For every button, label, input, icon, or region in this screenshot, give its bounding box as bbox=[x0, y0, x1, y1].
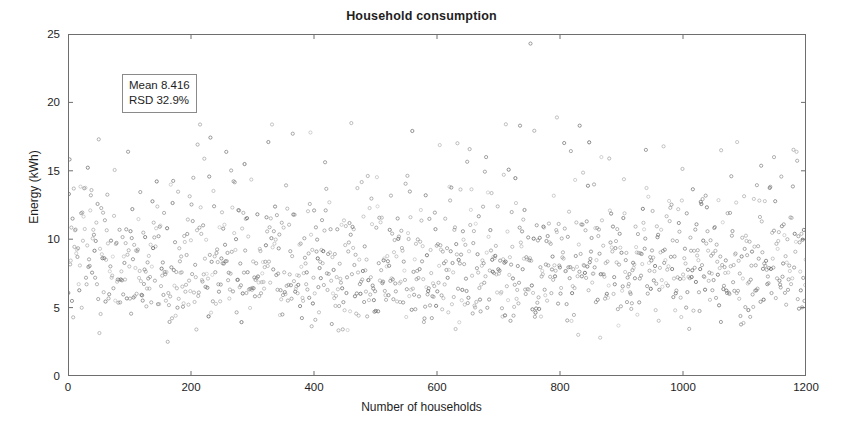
data-point bbox=[777, 231, 780, 234]
data-point bbox=[400, 229, 403, 232]
data-point bbox=[597, 234, 600, 237]
data-point bbox=[744, 234, 747, 237]
data-point bbox=[366, 174, 369, 177]
data-point bbox=[455, 253, 458, 256]
data-point bbox=[574, 254, 577, 257]
data-point bbox=[500, 307, 503, 310]
data-point bbox=[76, 255, 79, 258]
data-point bbox=[602, 244, 605, 247]
data-point bbox=[366, 315, 369, 318]
data-point bbox=[666, 268, 669, 271]
data-point bbox=[717, 199, 720, 202]
y-tick-label: 0 bbox=[54, 370, 60, 382]
data-point bbox=[242, 271, 245, 274]
data-point bbox=[96, 202, 99, 205]
data-point bbox=[298, 305, 301, 308]
data-point bbox=[234, 238, 237, 241]
data-point bbox=[84, 276, 87, 279]
data-point bbox=[314, 226, 317, 229]
data-point bbox=[81, 239, 84, 242]
data-point bbox=[520, 245, 523, 248]
data-point bbox=[481, 205, 484, 208]
data-point bbox=[339, 277, 342, 280]
data-point bbox=[511, 245, 514, 248]
data-point bbox=[672, 296, 675, 299]
data-point bbox=[524, 292, 527, 295]
data-point bbox=[584, 229, 587, 232]
data-point bbox=[413, 293, 416, 296]
data-point bbox=[557, 222, 560, 225]
data-point bbox=[695, 223, 698, 226]
data-point bbox=[462, 238, 465, 241]
data-point bbox=[639, 274, 642, 277]
data-point bbox=[417, 295, 420, 298]
data-point bbox=[471, 312, 474, 315]
data-point bbox=[318, 266, 321, 269]
data-point bbox=[309, 131, 312, 134]
data-point bbox=[578, 124, 581, 127]
data-point bbox=[761, 251, 764, 254]
data-point bbox=[563, 141, 566, 144]
data-point bbox=[137, 276, 140, 279]
data-point bbox=[280, 298, 283, 301]
data-point bbox=[455, 243, 458, 246]
data-point bbox=[268, 226, 271, 229]
data-point bbox=[724, 259, 727, 262]
data-point bbox=[529, 42, 532, 45]
data-point bbox=[394, 282, 397, 285]
data-point bbox=[458, 321, 461, 324]
data-point bbox=[610, 246, 613, 249]
data-point bbox=[99, 312, 102, 315]
data-point bbox=[698, 309, 701, 312]
data-point bbox=[520, 230, 523, 233]
data-point bbox=[686, 291, 689, 294]
y-tick-label: 25 bbox=[47, 28, 60, 40]
data-point bbox=[198, 123, 201, 126]
data-point bbox=[608, 157, 611, 160]
data-point bbox=[732, 263, 735, 266]
data-point bbox=[134, 266, 137, 269]
data-point bbox=[220, 257, 223, 260]
data-point bbox=[167, 291, 170, 294]
data-point bbox=[641, 262, 644, 265]
data-point bbox=[250, 178, 253, 181]
data-point bbox=[319, 277, 322, 280]
data-point bbox=[638, 301, 641, 304]
data-point bbox=[283, 271, 286, 274]
data-point bbox=[571, 292, 574, 295]
data-point bbox=[522, 218, 525, 221]
data-point bbox=[394, 290, 397, 293]
data-point bbox=[178, 260, 181, 263]
data-point bbox=[146, 261, 149, 264]
data-point bbox=[208, 175, 211, 178]
data-point bbox=[741, 277, 744, 280]
data-point bbox=[720, 149, 723, 152]
data-point bbox=[438, 143, 441, 146]
data-point bbox=[568, 277, 571, 280]
data-point bbox=[575, 265, 578, 268]
data-point bbox=[405, 315, 408, 318]
data-point bbox=[625, 300, 628, 303]
data-point bbox=[556, 302, 559, 305]
data-point bbox=[776, 247, 779, 250]
data-point bbox=[547, 222, 550, 225]
data-point bbox=[108, 293, 111, 296]
data-point bbox=[316, 238, 319, 241]
data-point bbox=[644, 148, 647, 151]
data-point bbox=[533, 129, 536, 132]
data-point bbox=[666, 284, 669, 287]
data-point bbox=[280, 221, 283, 224]
data-point bbox=[308, 296, 311, 299]
data-point bbox=[350, 121, 353, 124]
data-point bbox=[156, 205, 159, 208]
data-point bbox=[671, 239, 674, 242]
data-point bbox=[69, 259, 72, 262]
data-point bbox=[353, 263, 356, 266]
data-point bbox=[580, 275, 583, 278]
data-point bbox=[197, 291, 200, 294]
data-point bbox=[139, 280, 142, 283]
data-point bbox=[514, 177, 517, 180]
data-point bbox=[89, 209, 92, 212]
data-point bbox=[721, 221, 724, 224]
data-point bbox=[794, 240, 797, 243]
